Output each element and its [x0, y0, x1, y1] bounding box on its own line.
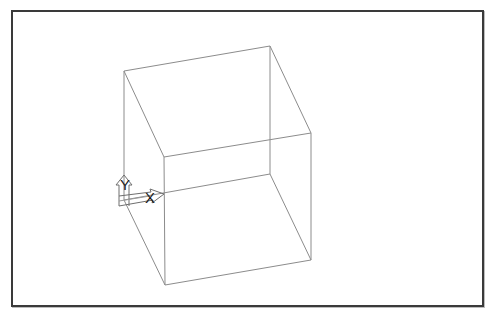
- cube-edge[interactable]: [165, 260, 311, 285]
- ucs-x-label: X: [145, 189, 155, 206]
- cube-edge[interactable]: [164, 157, 165, 285]
- wireframe-scene[interactable]: Y X: [0, 0, 493, 316]
- cube-edge[interactable]: [270, 174, 311, 260]
- cube-edge[interactable]: [270, 46, 311, 133]
- cube-edge[interactable]: [124, 200, 165, 285]
- cube-edge[interactable]: [124, 46, 270, 71]
- ucs-y-label: Y: [120, 176, 130, 193]
- wireframe-cube[interactable]: [124, 46, 311, 285]
- cube-edge[interactable]: [124, 71, 164, 157]
- cube-edge[interactable]: [164, 133, 311, 157]
